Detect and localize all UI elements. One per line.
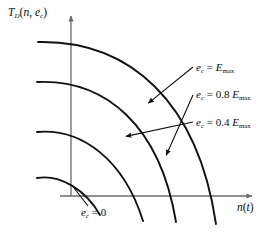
- ann-04-rhs: E: [232, 116, 239, 128]
- curve-group: [37, 42, 216, 224]
- y-axis-label: TD(n, ec): [8, 7, 47, 20]
- annotation-ec-08emax: ec = 0.8 Emax: [196, 89, 251, 102]
- ann-08-coef: 0.8: [216, 88, 233, 100]
- ann-08-eq: =: [204, 88, 216, 100]
- leader-line-emax: [148, 67, 193, 103]
- ann-04-eq: =: [204, 116, 216, 128]
- ann-zero-eq: =: [89, 206, 101, 218]
- y-label-paren-close: ): [43, 6, 47, 18]
- axis-group: [60, 16, 252, 196]
- annotation-ec-emax: ec = Emax: [196, 62, 234, 75]
- curve-ec-emax: [38, 42, 216, 224]
- ann-emax-rhs-sub: max: [222, 67, 234, 74]
- ann-zero-rhs: 0: [101, 206, 107, 218]
- ann-08-rhs: E: [232, 88, 239, 100]
- annotation-ec-04emax: ec = 0.4 Emax: [196, 117, 251, 130]
- annotation-ec-zero: ec = 0: [81, 207, 106, 220]
- x-label-paren-close: ): [250, 201, 254, 213]
- ann-04-rhs-sub: max: [239, 122, 251, 129]
- curve-ec-08emax: [37, 82, 176, 222]
- leader-group: [74, 67, 193, 206]
- x-axis-label: n(t): [237, 202, 254, 214]
- ann-08-rhs-sub: max: [239, 94, 251, 101]
- ann-04-coef: 0.4: [216, 116, 233, 128]
- ann-emax-eq: =: [204, 61, 216, 73]
- figure-canvas: TD(n, ec) n(t) ec = Emax ec = 0.8 Emax e…: [0, 0, 279, 234]
